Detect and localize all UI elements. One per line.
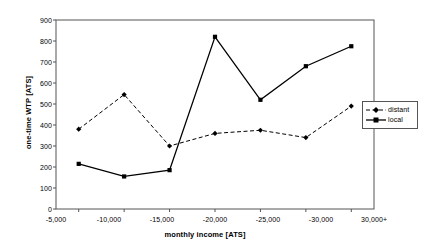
data-point-marker [212, 131, 217, 136]
legend-item-local: local [365, 115, 415, 125]
chart-figure: one-time WTP [ATS] 900 800 700 600 500 4… [0, 0, 427, 252]
data-point-marker [349, 44, 353, 48]
data-point-marker [167, 143, 172, 148]
data-point-marker [77, 162, 81, 166]
data-point-marker [167, 168, 171, 172]
legend-label: local [387, 116, 403, 124]
legend: distant local [362, 101, 418, 129]
legend-item-distant: distant [365, 105, 415, 115]
tick-marks [53, 20, 351, 212]
data-point-marker [122, 174, 126, 178]
data-point-marker [349, 104, 354, 109]
legend-sample-dashed-diamond-icon [365, 105, 387, 115]
axis-frame [56, 20, 374, 209]
plot-frame [56, 20, 374, 209]
series-line [79, 37, 352, 177]
series-layer [76, 35, 354, 179]
data-point-marker [258, 128, 263, 133]
series-line [79, 95, 352, 146]
legend-sample-solid-square-icon [365, 115, 387, 125]
data-point-marker [304, 64, 308, 68]
data-point-marker [258, 98, 262, 102]
series-distant [76, 92, 354, 149]
series-local [77, 35, 354, 179]
legend-label: distant [387, 106, 409, 114]
data-point-marker [213, 35, 217, 39]
